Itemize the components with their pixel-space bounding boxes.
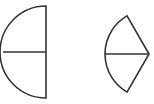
sector-shape	[105, 16, 149, 92]
diagram-canvas	[0, 0, 154, 104]
semicircle-shape	[0, 6, 46, 98]
